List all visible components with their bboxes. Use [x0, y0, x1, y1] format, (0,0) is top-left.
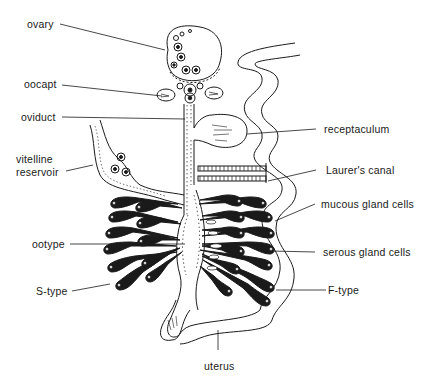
label-oviduct: oviduct	[21, 111, 56, 123]
label-f-type: F-type	[328, 284, 359, 296]
vitelline-reservoir-shape	[90, 120, 184, 205]
label-s-type: S-type	[36, 285, 68, 297]
ootype-shape	[168, 190, 205, 337]
laurers-canal-shape	[198, 163, 266, 183]
label-receptaculum: receptaculum	[324, 123, 389, 135]
label-laurers-canal: Laurer's canal	[326, 164, 394, 176]
f-type-gland-cells	[199, 195, 274, 306]
label-serous-gland-cells: serous gland cells	[323, 246, 411, 258]
ovary-shape	[167, 26, 222, 83]
label-mucous-gland-cells: mucous gland cells	[321, 198, 414, 210]
oocapt-shape	[157, 83, 223, 103]
label-ovary: ovary	[27, 18, 54, 30]
label-uterus: uterus	[204, 360, 234, 372]
diagram-canvas: ovary oocapt oviduct vitelline reservoir…	[0, 0, 432, 389]
receptaculum-shape	[191, 114, 247, 185]
label-ootype: ootype	[32, 238, 65, 250]
anatomy-drawing	[0, 0, 432, 389]
label-vitelline: vitelline	[16, 153, 53, 165]
label-reservoir: reservoir	[16, 166, 59, 178]
label-oocapt: oocapt	[24, 78, 57, 90]
s-type-gland-cells	[104, 197, 182, 290]
oviduct-duct	[184, 104, 194, 215]
